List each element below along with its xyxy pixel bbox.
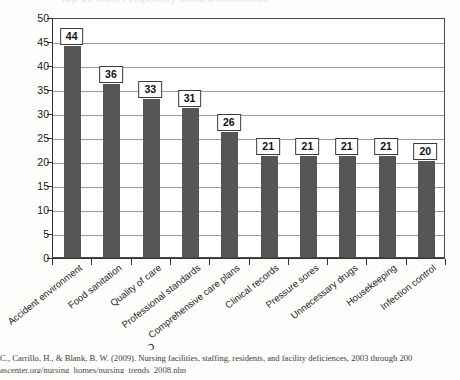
- y-axis-label: 10: [37, 204, 49, 216]
- gridline: [53, 43, 444, 44]
- bar: [261, 156, 278, 257]
- bar: [221, 132, 238, 257]
- x-axis-tick: [406, 259, 407, 265]
- bar-value-label: 26: [217, 114, 241, 131]
- x-axis-tick: [209, 259, 210, 265]
- y-axis-label: 40: [37, 60, 49, 72]
- y-axis-label: 0: [43, 252, 49, 264]
- bar-value-label: 21: [296, 138, 320, 155]
- caption-line-1: C., Carrillo, H., & Blank, B. W. (2009).…: [0, 353, 460, 365]
- bar-value-label: 21: [335, 138, 359, 155]
- bar-value-label: 20: [414, 143, 438, 160]
- x-axis-tick: [131, 259, 132, 265]
- bar-value-label: 44: [60, 28, 84, 45]
- x-axis-tick: [288, 259, 289, 265]
- x-axis-tick: [327, 259, 328, 265]
- bar-value-label: 21: [374, 138, 398, 155]
- bar: [143, 99, 160, 257]
- x-axis-label: Accident environment: [6, 262, 85, 327]
- y-axis-label: 25: [37, 132, 49, 144]
- y-axis-label: 50: [37, 12, 49, 24]
- y-axis-label: 35: [37, 84, 49, 96]
- x-axis-tick: [445, 259, 446, 265]
- x-axis: [52, 258, 445, 259]
- bar: [103, 84, 120, 257]
- x-axis-tick: [52, 259, 53, 265]
- x-axis-tick: [170, 259, 171, 265]
- y-axis-label: 20: [37, 156, 49, 168]
- y-axis: 05101520253035404550: [52, 18, 53, 259]
- caption-line-2: ascenter.org/nursing_homes/nursing_trend…: [0, 365, 460, 373]
- bar: [418, 161, 435, 257]
- bar-value-label: 31: [178, 90, 202, 107]
- bar-value-label: 36: [99, 66, 123, 83]
- y-axis-label: 5: [43, 228, 49, 240]
- x-axis-tick: [249, 259, 250, 265]
- bar: [182, 108, 199, 257]
- x-axis-tick: [91, 259, 92, 265]
- bar: [339, 156, 356, 257]
- bar-value-label: 21: [256, 138, 280, 155]
- bar: [64, 46, 81, 257]
- bar-chart-figure: 05101520253035404550 44Accident environm…: [0, 0, 460, 348]
- source-caption: C., Carrillo, H., & Blank, B. W. (2009).…: [0, 353, 460, 373]
- y-axis-label: 45: [37, 36, 49, 48]
- bar: [300, 156, 317, 257]
- x-axis-tick: [366, 259, 367, 265]
- bar: [379, 156, 396, 257]
- y-axis-label: 30: [37, 108, 49, 120]
- x-axis-label: Unnecessary drugs: [288, 262, 359, 321]
- bar-value-label: 33: [138, 81, 162, 98]
- y-axis-label: 15: [37, 180, 49, 192]
